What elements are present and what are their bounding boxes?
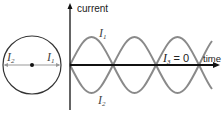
current-diagram: I2 I1 current time I1 I2 I3 = 0 <box>0 0 222 113</box>
i3-label: I3 = 0 <box>162 51 189 66</box>
arrow-right-head-icon <box>56 63 61 67</box>
x-axis-label: time <box>203 53 221 64</box>
wave-i1-label: I1 <box>98 26 107 41</box>
wave-i2-label: I2 <box>97 93 106 108</box>
circle-right-label: I1 <box>46 50 55 65</box>
center-dot <box>30 63 34 67</box>
circle-diagram: I2 I1 <box>3 36 61 94</box>
y-axis-arrow-icon <box>68 3 73 9</box>
y-axis-label: current <box>77 3 108 14</box>
circle-left-label: I2 <box>6 50 15 65</box>
axes: current time <box>68 3 221 110</box>
